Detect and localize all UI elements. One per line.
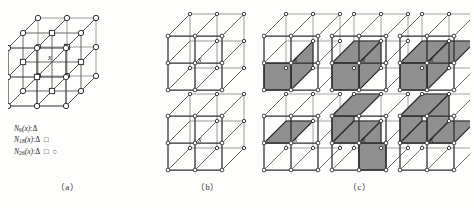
panel-caption-a: （a）	[56, 180, 79, 192]
legend-line-n18: N18(x):Δ □	[14, 135, 58, 146]
legend-line-n26: N26(x):Δ □ ○	[14, 147, 58, 158]
center-voxel-label-c4: x	[293, 135, 298, 144]
legend-line-n6: N6(x):Δ	[14, 124, 58, 135]
panel-c-cube-r0c0: x	[262, 12, 342, 92]
panel-a-lattice: x	[8, 12, 132, 124]
center-voxel-label-c3: x	[429, 55, 434, 64]
center-voxel-label-a: x	[47, 53, 52, 62]
legend-glyphs-6: Δ	[32, 124, 38, 133]
center-voxel-label-c2: x	[361, 55, 366, 64]
center-voxel-label-b2: x	[197, 135, 202, 144]
center-voxel-label-b1: x	[197, 55, 202, 64]
panel-caption-b: （b）	[196, 180, 219, 192]
panel-caption-c: （c）	[348, 180, 371, 192]
legend-arg-26: (x)	[25, 147, 33, 156]
panel-b-cube-top: x	[166, 12, 246, 92]
panel-c-cube-r0c2: x	[398, 12, 470, 92]
neighborhood-legend: N6(x):Δ N18(x):Δ □ N26(x):Δ □ ○	[14, 124, 58, 158]
panel-c-cubes: x x x x	[262, 12, 470, 174]
center-voxel-label-c6: x	[429, 135, 434, 144]
legend-glyphs-18: Δ □	[35, 135, 50, 144]
panel-b-svg: x x	[160, 12, 260, 174]
figure-canvas: x N6(x):Δ N18(x):Δ □ N26(x):Δ □ ○	[0, 0, 474, 208]
panel-c-cube-r1c0: x	[262, 92, 342, 172]
panel-c-svg: x x x x	[262, 12, 470, 174]
legend-arg-18: (x)	[25, 135, 33, 144]
panel-b-cube-bottom: x	[166, 92, 246, 172]
panel-b-cubes: x x	[160, 12, 260, 174]
center-voxel-label-c5: x	[361, 135, 366, 144]
panel-a-svg: x	[8, 12, 132, 124]
panel-c-cube-r0c1: x	[330, 12, 410, 92]
panel-c-cube-r1c1: x	[330, 92, 410, 172]
center-voxel-label-c1: x	[293, 55, 298, 64]
legend-glyphs-26: Δ □ ○	[35, 147, 58, 156]
panel-c-cube-r1c2: x	[398, 92, 470, 172]
